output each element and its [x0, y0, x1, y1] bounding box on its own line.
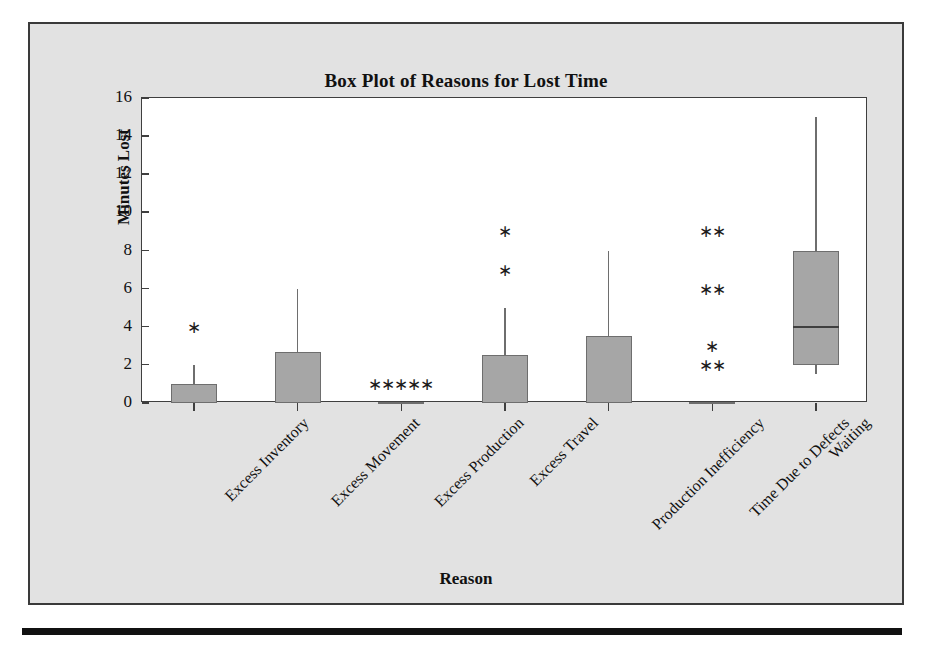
- chart-title: Box Plot of Reasons for Lost Time: [30, 70, 902, 92]
- x-tick-mark: [712, 403, 714, 411]
- box-plot-waiting: [142, 98, 866, 401]
- box-iqr: [793, 251, 839, 365]
- x-tick-mark: [401, 403, 403, 411]
- y-tick-label: 6: [92, 278, 132, 298]
- y-tick-label: 0: [92, 392, 132, 412]
- lower-whisker: [815, 365, 817, 375]
- x-tick-mark: [504, 403, 506, 411]
- x-tick-label-excess-travel: Excess Travel: [526, 414, 602, 490]
- bottom-rule-divider: [22, 628, 902, 635]
- y-tick-label: 14: [92, 125, 132, 145]
- y-tick-label: 16: [92, 87, 132, 107]
- x-tick-mark: [297, 403, 299, 411]
- figure-panel: Box Plot of Reasons for Lost Time Minute…: [28, 22, 904, 605]
- x-tick-label-production-inefficiency: Production Inefficiency: [648, 414, 768, 534]
- plot-area: 0246810121416 ∗∗∗∗∗∗∗∗∗∗∗∗∗∗∗: [141, 97, 867, 402]
- upper-whisker: [815, 117, 817, 250]
- x-tick-label-excess-production: Excess Production: [431, 414, 528, 511]
- y-tick-label: 2: [92, 354, 132, 374]
- y-tick-label: 4: [92, 316, 132, 336]
- x-tick-label-excess-movement: Excess Movement: [327, 414, 423, 510]
- box-flat-line: [378, 402, 424, 404]
- y-tick-label: 12: [92, 163, 132, 183]
- y-tick-label: 8: [92, 240, 132, 260]
- box-flat-line: [689, 402, 735, 404]
- median-line: [793, 326, 839, 328]
- x-tick-mark: [608, 403, 610, 411]
- y-tick-label: 10: [92, 201, 132, 221]
- x-tick-label-excess-inventory: Excess Inventory: [221, 414, 312, 505]
- y-tick-mark: [142, 402, 149, 404]
- x-tick-mark: [815, 403, 817, 411]
- x-axis-title: Reason: [30, 569, 902, 589]
- x-tick-mark: [193, 403, 195, 411]
